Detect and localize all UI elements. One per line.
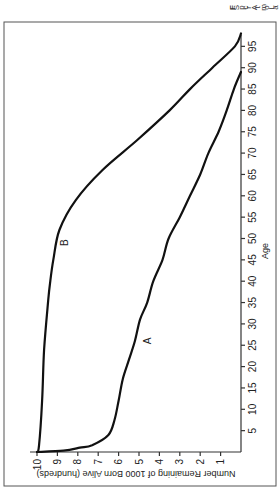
y-tick-label: 8: [72, 459, 83, 465]
y-tick-label: 10: [32, 459, 43, 471]
x-tick-label: 75: [247, 126, 258, 138]
x-ticks: 5101520253035404550556065707580859095: [241, 40, 258, 433]
curve-label-a: A: [142, 337, 153, 344]
x-tick-label: 45: [247, 254, 258, 266]
y-tick-label: 2: [195, 459, 206, 465]
y-axis-title: Number Remaining of 1000 Born Alive (hun…: [36, 469, 235, 479]
x-tick-label: 95: [247, 40, 258, 52]
caption-glyph: a: [271, 5, 280, 9]
x-tick-label: 35: [247, 297, 258, 309]
y-ticks: 12345678910: [32, 452, 227, 470]
x-tick-label: 80: [247, 104, 258, 116]
y-tick-label: 1: [215, 459, 226, 465]
x-tick-label: 20: [247, 361, 258, 373]
x-tick-label: 50: [247, 233, 258, 245]
x-tick-label: 25: [247, 339, 258, 351]
x-tick-label: 40: [247, 275, 258, 287]
x-tick-label: 90: [247, 62, 258, 74]
x-tick-label: 60: [247, 190, 258, 202]
caption-fragment: FSpcrAtmoLa: [230, 1, 280, 19]
y-tick-label: 4: [154, 459, 165, 465]
x-tick-label: 70: [247, 147, 258, 159]
x-tick-label: 55: [247, 211, 258, 223]
survivorship-chart: 5101520253035404550556065707580859095 12…: [0, 0, 280, 499]
x-tick-label: 5: [247, 427, 258, 433]
x-tick-label: 10: [247, 403, 258, 415]
x-tick-label: 15: [247, 382, 258, 394]
y-tick-label: 7: [93, 459, 104, 465]
y-tick-label: 6: [113, 459, 124, 465]
y-tick-label: 3: [174, 459, 185, 465]
x-tick-label: 85: [247, 83, 258, 95]
y-tick-label: 9: [52, 459, 63, 465]
figure-frame: [4, 22, 276, 486]
x-axis-title: Age: [260, 243, 270, 259]
x-tick-label: 30: [247, 318, 258, 330]
curve-a: [37, 72, 241, 452]
x-tick-label: 65: [247, 168, 258, 180]
annotations: AB: [59, 239, 154, 344]
curve-label-b: B: [59, 239, 70, 246]
rotated-figure: 5101520253035404550556065707580859095 12…: [0, 0, 280, 499]
y-tick-label: 5: [134, 459, 145, 465]
